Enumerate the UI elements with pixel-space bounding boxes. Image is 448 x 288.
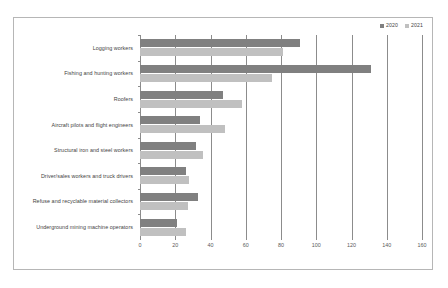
category-label: Driver/sales workers and truck drivers [41, 173, 133, 179]
bar-2021[interactable] [140, 125, 225, 133]
bar-group [140, 35, 422, 61]
category-tick [138, 61, 140, 62]
category-label-cell: Aircraft pilots and flight engineers [27, 112, 137, 138]
bar-group [140, 86, 422, 112]
category-label: Underground mining machine operators [36, 224, 133, 230]
chart-frame: 2020 2021 Logging workersFishing and hun… [13, 17, 433, 270]
value-axis-labels: 020406080100120140160 [140, 242, 422, 254]
category-tick [138, 112, 140, 113]
category-tick [138, 163, 140, 164]
category-label: Structural iron and steel workers [54, 147, 133, 153]
category-tick [138, 138, 140, 139]
category-label-cell: Fishing and hunting workers [27, 61, 137, 87]
bar-group [140, 61, 422, 87]
category-tick [138, 86, 140, 87]
bar-2021[interactable] [140, 151, 203, 159]
value-tick-label: 140 [382, 242, 391, 248]
bar-2021[interactable] [140, 48, 283, 56]
bar-group [140, 138, 422, 164]
legend-label-2021: 2021 [411, 23, 423, 28]
category-tick [138, 35, 140, 36]
category-tick [138, 214, 140, 215]
legend-entry-2021[interactable]: 2021 [405, 23, 423, 28]
category-label-cell: Underground mining machine operators [27, 214, 137, 240]
legend-entry-2020[interactable]: 2020 [380, 23, 398, 28]
category-tick [138, 189, 140, 190]
bar-2021[interactable] [140, 202, 188, 210]
category-label-cell: Roofers [27, 86, 137, 112]
bar-2020[interactable] [140, 91, 223, 99]
bar-2020[interactable] [140, 193, 198, 201]
category-label: Refuse and recyclable material collector… [33, 198, 133, 204]
bar-2021[interactable] [140, 74, 272, 82]
bar-2020[interactable] [140, 167, 186, 175]
category-label: Aircraft pilots and flight engineers [51, 122, 133, 128]
legend-swatch-2020 [380, 24, 384, 28]
bar-2021[interactable] [140, 176, 189, 184]
category-label-cell: Logging workers [27, 35, 137, 61]
value-tick-label: 160 [418, 242, 427, 248]
bar-2020[interactable] [140, 116, 200, 124]
category-label-cell: Structural iron and steel workers [27, 138, 137, 164]
plot-area [140, 35, 422, 240]
bar-group [140, 112, 422, 138]
bar-2021[interactable] [140, 100, 242, 108]
value-tick-label: 0 [139, 242, 142, 248]
gridline-160 [422, 35, 423, 240]
bar-2020[interactable] [140, 39, 300, 47]
bar-group [140, 189, 422, 215]
value-tick-label: 60 [243, 242, 249, 248]
bar-rows [140, 35, 422, 240]
legend-label-2020: 2020 [386, 23, 398, 28]
value-tick-label: 80 [278, 242, 284, 248]
category-label-cell: Refuse and recyclable material collector… [27, 189, 137, 215]
category-label-cell: Driver/sales workers and truck drivers [27, 163, 137, 189]
bar-group [140, 163, 422, 189]
category-axis-labels: Logging workersFishing and hunting worke… [27, 35, 137, 240]
bar-2020[interactable] [140, 219, 177, 227]
bar-group [140, 214, 422, 240]
legend-swatch-2021 [405, 24, 409, 28]
bar-2020[interactable] [140, 142, 196, 150]
category-label: Logging workers [93, 45, 133, 51]
bar-2021[interactable] [140, 228, 186, 236]
chart-legend: 2020 2021 [380, 23, 423, 28]
value-tick-label: 100 [312, 242, 321, 248]
value-tick-label: 120 [347, 242, 356, 248]
category-label: Roofers [114, 96, 133, 102]
bar-2020[interactable] [140, 65, 371, 73]
value-tick-label: 40 [208, 242, 214, 248]
category-label: Fishing and hunting workers [64, 70, 133, 76]
value-tick-label: 20 [172, 242, 178, 248]
